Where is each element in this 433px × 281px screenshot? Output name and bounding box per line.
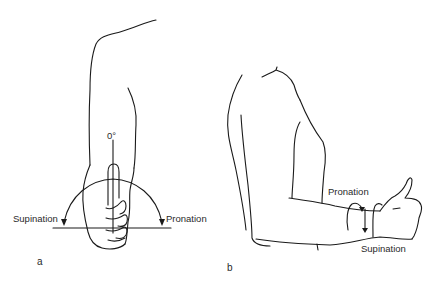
supination-label-panel-b: Supination: [361, 243, 406, 254]
panel-a-letter: a: [37, 256, 43, 267]
forearm-rotation-diagram: [0, 0, 433, 281]
supination-label-panel-a: Supination: [13, 213, 58, 224]
pronation-label-panel-a: Pronation: [166, 213, 207, 224]
panel-b-letter: b: [227, 262, 233, 273]
panel-b-arm-drawing: [228, 67, 422, 250]
pronation-label-panel-b: Pronation: [328, 186, 369, 197]
angle-label-zero-degrees: 0°: [107, 130, 116, 141]
